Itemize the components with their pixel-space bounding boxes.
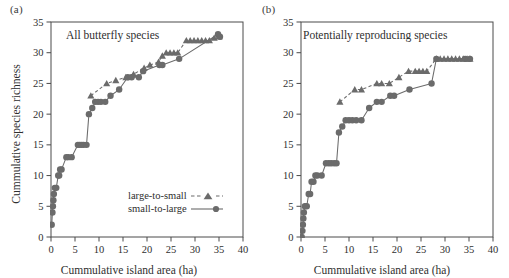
svg-text:35: 35 — [33, 17, 44, 28]
svg-text:35: 35 — [283, 17, 294, 28]
svg-text:35: 35 — [464, 244, 475, 255]
svg-text:10: 10 — [344, 244, 355, 255]
legend-label-large-to-small: large-to-small — [128, 190, 187, 201]
legend: large-to-small small-to-large — [128, 189, 223, 215]
svg-text:25: 25 — [166, 244, 177, 255]
svg-text:5: 5 — [288, 201, 293, 212]
panel-a-x-axis-title: Cummulative island area (ha) — [14, 264, 244, 276]
svg-text:15: 15 — [118, 244, 129, 255]
svg-text:0: 0 — [288, 232, 293, 243]
figure-container: (a) All butterfly species 05101520253035… — [0, 0, 509, 278]
svg-text:0: 0 — [48, 244, 53, 255]
svg-text:20: 20 — [142, 244, 153, 255]
svg-text:25: 25 — [416, 244, 427, 255]
svg-text:5: 5 — [72, 244, 77, 255]
svg-text:25: 25 — [33, 78, 44, 89]
svg-text:30: 30 — [190, 244, 201, 255]
panel-a-y-axis-title: Cummulative species richness — [10, 39, 22, 229]
svg-text:35: 35 — [214, 244, 225, 255]
svg-text:25: 25 — [283, 78, 294, 89]
svg-text:10: 10 — [283, 170, 294, 181]
legend-key-triangle-dashed — [191, 190, 223, 202]
panel-a-plot: 051015202530354005101520253035 — [0, 0, 254, 278]
svg-text:10: 10 — [94, 244, 105, 255]
svg-text:0: 0 — [38, 232, 43, 243]
svg-text:30: 30 — [33, 47, 44, 58]
svg-text:5: 5 — [322, 244, 327, 255]
svg-text:15: 15 — [368, 244, 379, 255]
panel-a: (a) All butterfly species 05101520253035… — [0, 0, 254, 278]
legend-entry-large-to-small: large-to-small — [128, 189, 223, 202]
panel-b: (b) Potentially reproducing species 0510… — [254, 0, 508, 278]
svg-text:5: 5 — [38, 201, 43, 212]
panel-b-plot: 051015202530354005101520253035 — [254, 0, 508, 278]
svg-text:20: 20 — [33, 109, 44, 120]
legend-key-circle-solid — [191, 203, 223, 215]
svg-text:15: 15 — [33, 139, 44, 150]
svg-text:15: 15 — [283, 139, 294, 150]
svg-text:20: 20 — [283, 109, 294, 120]
svg-text:40: 40 — [488, 244, 499, 255]
legend-entry-small-to-large: small-to-large — [128, 202, 223, 215]
panel-b-x-axis-title: Cummulative island area (ha) — [266, 264, 498, 276]
legend-label-small-to-large: small-to-large — [128, 203, 187, 214]
svg-text:10: 10 — [33, 170, 44, 181]
svg-text:20: 20 — [392, 244, 403, 255]
svg-text:40: 40 — [238, 244, 249, 255]
svg-text:0: 0 — [298, 244, 303, 255]
svg-text:30: 30 — [283, 47, 294, 58]
svg-text:30: 30 — [440, 244, 451, 255]
